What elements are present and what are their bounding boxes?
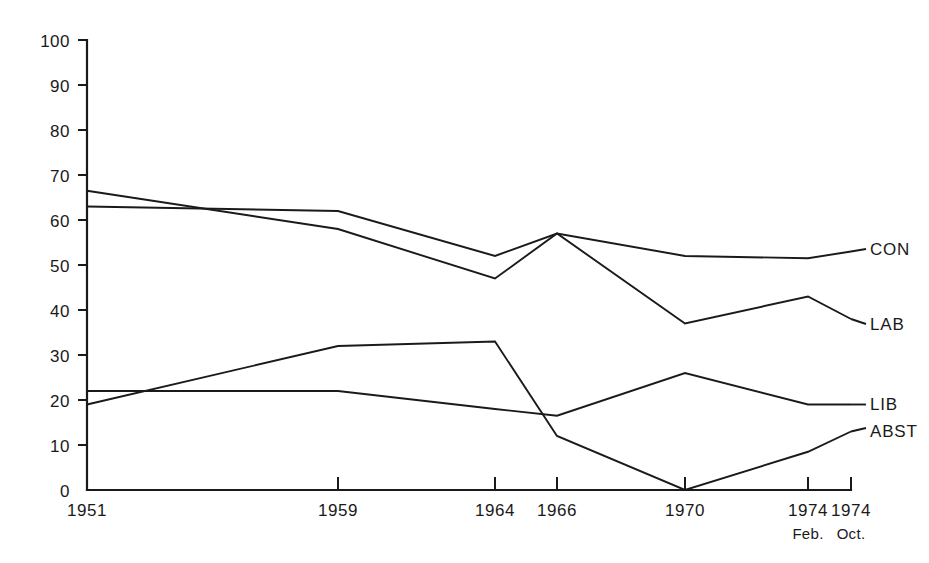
series-line-abst bbox=[87, 342, 851, 491]
series-label-con: CON bbox=[870, 240, 910, 259]
y-tick-label-20: 20 bbox=[50, 392, 70, 411]
x-sublabel-feb: Feb. bbox=[792, 525, 823, 542]
y-tick-label-60: 60 bbox=[50, 212, 70, 231]
leader-abst bbox=[851, 428, 866, 432]
x-tick-marks bbox=[87, 477, 851, 490]
leader-lab bbox=[851, 319, 866, 324]
y-tick-labels: 100 90 80 70 60 50 40 30 20 10 0 bbox=[40, 32, 70, 501]
series-line-con bbox=[87, 207, 851, 259]
y-tick-label-100: 100 bbox=[40, 32, 70, 51]
x-sublabel-oct: Oct. bbox=[837, 525, 866, 542]
y-tick-marks bbox=[78, 40, 87, 445]
x-tick-label-1966: 1966 bbox=[537, 501, 577, 520]
y-tick-label-50: 50 bbox=[50, 257, 70, 276]
axes-group bbox=[78, 40, 851, 490]
x-tick-labels: 1951 1959 1964 1966 1970 1974 1974 Feb. … bbox=[67, 501, 871, 542]
x-tick-label-1974-feb: 1974 bbox=[788, 501, 828, 520]
x-tick-label-1970: 1970 bbox=[665, 501, 705, 520]
series-label-lib: LIB bbox=[870, 395, 898, 414]
leader-con bbox=[851, 249, 866, 252]
series-group bbox=[87, 191, 851, 490]
y-tick-label-70: 70 bbox=[50, 167, 70, 186]
label-leaders bbox=[851, 249, 866, 432]
y-tick-label-80: 80 bbox=[50, 122, 70, 141]
x-tick-label-1951: 1951 bbox=[67, 501, 107, 520]
y-tick-label-40: 40 bbox=[50, 302, 70, 321]
y-tick-label-10: 10 bbox=[50, 437, 70, 456]
x-tick-label-1974-oct: 1974 bbox=[831, 501, 871, 520]
series-label-lab: LAB bbox=[870, 315, 905, 334]
series-line-lib bbox=[87, 373, 851, 416]
y-tick-label-0: 0 bbox=[60, 482, 70, 501]
x-tick-label-1964: 1964 bbox=[475, 501, 515, 520]
chart-canvas: 100 90 80 70 60 50 40 30 20 10 0 1951 19… bbox=[0, 0, 929, 563]
y-tick-label-90: 90 bbox=[50, 77, 70, 96]
y-tick-label-30: 30 bbox=[50, 347, 70, 366]
x-tick-label-1959: 1959 bbox=[318, 501, 358, 520]
series-labels: CON LAB LIB ABST bbox=[870, 240, 918, 441]
series-label-abst: ABST bbox=[870, 422, 918, 441]
line-chart: 100 90 80 70 60 50 40 30 20 10 0 1951 19… bbox=[0, 0, 929, 563]
